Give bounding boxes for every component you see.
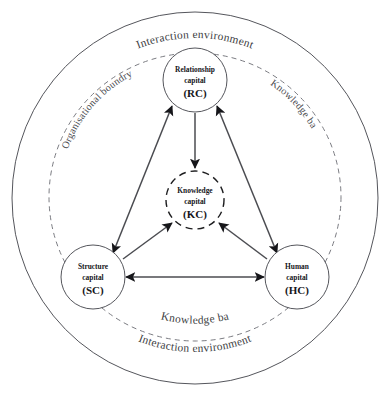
node-sc-line1: Structure: [78, 262, 109, 271]
node-hc-line2: capital: [286, 273, 307, 282]
node-rc-line1: Relationship: [175, 65, 215, 74]
edge-rc-sc: [113, 106, 172, 253]
edge-sc-kc: [123, 223, 172, 259]
node-sc-abbr: (SC): [82, 284, 104, 297]
node-knowledge-capital[interactable]: Knowledge capital (KC): [166, 171, 224, 229]
node-human-capital[interactable]: Human capital (HC): [265, 245, 329, 309]
intellectual-capital-diagram: Interaction environment Interaction envi…: [0, 0, 390, 402]
node-kc-abbr: (KC): [183, 208, 207, 221]
node-kc-line1: Knowledge: [177, 186, 213, 195]
outer-label-bottom: Interaction environment: [137, 332, 253, 354]
boundary-label-left: Organisational boundry: [59, 67, 134, 150]
node-rc-line2: capital: [184, 76, 205, 85]
node-hc-abbr: (HC): [285, 284, 309, 297]
node-kc-line2: capital: [184, 197, 205, 206]
node-structure-capital[interactable]: Structure capital (SC): [61, 245, 125, 309]
node-relationship-capital[interactable]: Relationship capital (RC): [163, 48, 227, 112]
node-hc-line1: Human: [285, 262, 309, 271]
diagram-canvas: Interaction environment Interaction envi…: [0, 0, 390, 402]
boundary-label-bottom: Knowledge ba: [160, 309, 230, 325]
outer-label-top: Interaction environment: [134, 28, 256, 51]
node-rc-abbr: (RC): [183, 87, 207, 100]
node-sc-line2: capital: [82, 273, 103, 282]
boundary-label-right: Knowledge ba: [269, 77, 320, 130]
edge-rc-hc: [217, 106, 277, 253]
edge-hc-kc: [219, 223, 267, 259]
